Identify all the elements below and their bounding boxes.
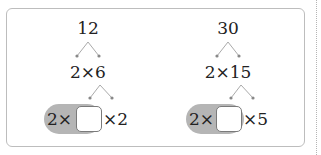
expression-left-prefix: 2× — [47, 109, 72, 129]
branch-12 — [77, 42, 99, 56]
branch-15 — [231, 85, 253, 98]
number-12: 12 — [77, 18, 99, 38]
answer-blank-left[interactable] — [76, 106, 102, 132]
branch-6 — [90, 85, 112, 98]
factorization-2x15: 2×15 — [205, 62, 252, 82]
expression-left-suffix: ×2 — [103, 109, 128, 129]
factorization-2x6: 2×6 — [70, 62, 106, 82]
expression-right-prefix: 2× — [189, 109, 214, 129]
answer-blank-right[interactable] — [216, 106, 242, 132]
number-30: 30 — [217, 18, 239, 38]
expression-right-suffix: ×5 — [243, 109, 268, 129]
factor-tree-branches — [0, 0, 321, 155]
branch-30 — [217, 42, 239, 56]
